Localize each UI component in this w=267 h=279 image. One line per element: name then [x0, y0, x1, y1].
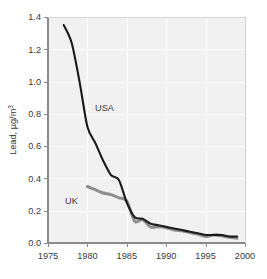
y-axis-title-exponent: 3 [7, 105, 14, 109]
x-tick-label: 1985 [117, 251, 137, 261]
y-tick-label: 1.0 [28, 77, 41, 87]
y-axis-title: Lead, µg/m3 [7, 105, 18, 155]
x-tick-label: 1980 [77, 251, 97, 261]
svg-text:Lead, µg/m3: Lead, µg/m3 [7, 105, 18, 155]
chart-canvas: 1.41.21.00.80.60.40.20.0 197519801985199… [0, 0, 267, 279]
y-axis-title-main: Lead, [8, 129, 18, 155]
y-tick-label: 0.8 [28, 109, 41, 119]
y-tick-label: 0.4 [28, 174, 41, 184]
x-tick-label: 2000 [235, 251, 255, 261]
plot-area-background [48, 17, 245, 243]
x-tick-label: 1975 [38, 251, 58, 261]
lead-concentration-line-chart: 1.41.21.00.80.60.40.20.0 197519801985199… [0, 0, 267, 279]
y-tick-label: 0.0 [28, 238, 41, 248]
series-label-uk: UK [65, 196, 79, 206]
y-tick-label: 1.2 [28, 45, 41, 55]
x-tick-label: 1990 [156, 251, 176, 261]
y-tick-label: 0.2 [28, 206, 41, 216]
series-label-usa: USA [95, 103, 115, 113]
x-tick-label: 1995 [195, 251, 215, 261]
y-tick-label: 1.4 [28, 12, 41, 22]
y-axis-title-unit: µg/m [8, 108, 18, 129]
y-tick-label: 0.6 [28, 141, 41, 151]
